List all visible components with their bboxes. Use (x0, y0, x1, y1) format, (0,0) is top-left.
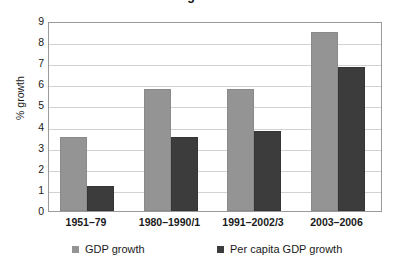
y-axis-tick-label: 3 (20, 143, 44, 154)
legend-swatch-icon (217, 246, 224, 253)
bar-per-capita-gdp-growth (87, 186, 114, 211)
legend-item-label: Per capita GDP growth (230, 243, 342, 255)
bar-gdp-growth (60, 137, 87, 211)
y-axis-tick-label: 4 (20, 122, 44, 133)
y-axis-tick-label: 9 (20, 16, 44, 27)
bar-gdp-growth (144, 89, 171, 211)
plot-area (48, 22, 382, 212)
bar-gdp-growth (227, 89, 254, 211)
chart-legend: GDP growthPer capita GDP growth (0, 243, 400, 265)
bar-per-capita-gdp-growth (254, 131, 281, 211)
bar-per-capita-gdp-growth (338, 67, 365, 211)
y-axis-tick-label: 6 (20, 79, 44, 90)
y-axis-tick-label: 7 (20, 58, 44, 69)
y-axis-tick-label: 2 (20, 164, 44, 175)
legend-item[interactable]: GDP growth (72, 243, 145, 255)
legend-item[interactable]: Per capita GDP growth (217, 243, 342, 255)
y-axis-tick-label: 8 (20, 37, 44, 48)
y-axis-tick-label: 0 (20, 206, 44, 217)
bar-gdp-growth (311, 32, 338, 211)
y-axis-tick-label: 1 (20, 185, 44, 196)
legend-item-label: GDP growth (85, 243, 145, 255)
legend-swatch-icon (72, 246, 79, 253)
x-axis-category-label: 2003–2006 (277, 216, 397, 228)
bar-chart: % growth 0123456789 1951–791980–1990/119… (0, 0, 400, 269)
bar-per-capita-gdp-growth (171, 137, 198, 211)
y-axis-tick-label: 5 (20, 100, 44, 111)
